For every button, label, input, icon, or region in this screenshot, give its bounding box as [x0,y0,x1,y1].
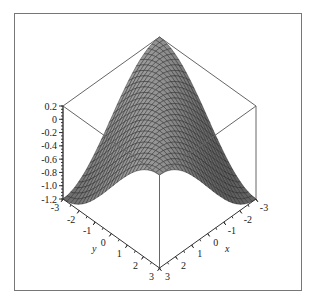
x-axis: -3-2-10123 [160,199,269,282]
z-tick-label: -0.6 [41,154,57,165]
y-tick-label: 0 [101,237,106,248]
z-tick-label: -0.4 [41,140,57,151]
y-axis-label: y [91,243,97,254]
y-tick-label: -3 [51,202,59,213]
x-tick-label: 0 [213,237,218,248]
x-tick-label: 1 [197,248,202,259]
x-tick-label: -3 [260,202,268,213]
z-tick-label: 0 [52,114,57,125]
x-axis-label: x [224,243,230,254]
z-axis: 0.20-0.2-0.4-0.6-0.8-1.0-1.2 [41,101,63,205]
y-tick-label: 3 [149,271,154,282]
z-tick-label: -0.2 [41,127,57,138]
y-tick-label: -2 [67,214,75,225]
y-tick-label: 1 [117,248,122,259]
y-axis: -3-2-10123 [51,199,160,282]
x-tick-label: 2 [181,260,186,271]
z-tick-label: -1.0 [41,180,57,191]
y-tick-label: 2 [133,260,138,271]
z-tick-label: 0.2 [45,101,58,112]
z-tick-label: -0.8 [41,167,57,178]
x-tick-label: 3 [165,271,170,282]
x-tick-label: -1 [228,225,236,236]
x-tick-label: -2 [244,214,252,225]
y-tick-label: -1 [83,225,91,236]
surface-plot: 0.20-0.2-0.4-0.6-0.8-1.0-1.2 -3-2-10123 … [0,0,312,300]
